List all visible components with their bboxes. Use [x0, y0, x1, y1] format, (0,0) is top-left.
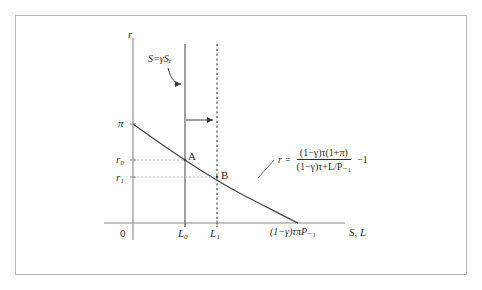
y-tick-label-r0: r₀ — [116, 154, 124, 165]
equation-denominator: (1−γ)τ+L/P₋₁ — [294, 160, 355, 172]
plot-canvas — [0, 0, 482, 290]
demand-curve — [133, 124, 298, 223]
equation-lhs: r — [278, 154, 282, 165]
figure-root: r S, L π r₀ r₁ 0 L₀ L₁ (1−γ)τπP₋₁ A B S=… — [0, 0, 482, 290]
x-tick-label-L0: L₀ — [178, 228, 188, 239]
y-axis-label: r — [128, 29, 132, 40]
point-a-label: A — [188, 151, 196, 162]
supply-label-arrow — [168, 68, 181, 84]
supply-shift-label: S=γSₑ — [148, 54, 171, 64]
x-axis-label: S, L — [349, 227, 366, 238]
equation-numerator: (1−γ)τ(1+π) — [297, 147, 351, 160]
equation-equals-sign: = — [285, 154, 291, 165]
origin-label: 0 — [120, 228, 126, 239]
y-tick-label-r1: r₁ — [116, 172, 124, 183]
point-a-marker — [184, 159, 187, 162]
demand-curve-equation: r = (1−γ)τ(1+π) (1−γ)τ+L/P₋₁ −1 — [278, 147, 368, 172]
equation-leader — [258, 160, 274, 178]
equation-fraction: (1−γ)τ(1+π) (1−γ)τ+L/P₋₁ — [294, 147, 355, 172]
y-tick-label-pi: π — [118, 118, 124, 129]
x-intercept-label: (1−γ)τπP₋₁ — [270, 227, 316, 237]
point-b-marker — [216, 176, 219, 179]
point-b-label: B — [221, 170, 228, 181]
x-tick-label-L1: L₁ — [210, 228, 220, 239]
equation-tail: −1 — [357, 154, 368, 165]
